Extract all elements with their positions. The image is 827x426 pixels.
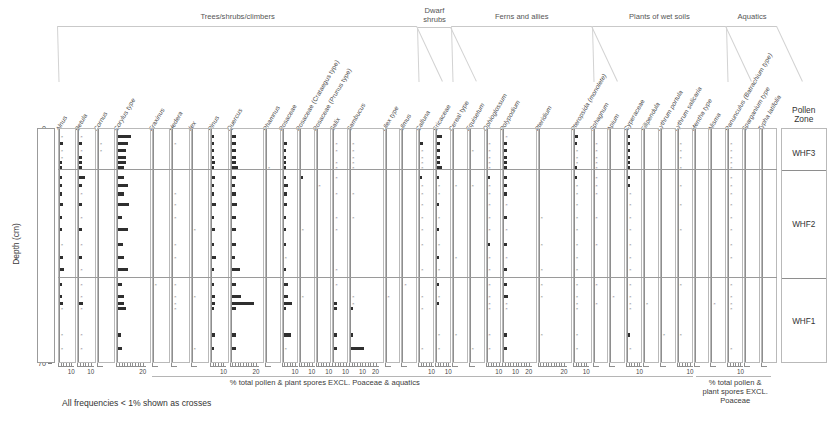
percent-minor-tick xyxy=(710,363,711,366)
trace-cross-marker xyxy=(80,307,83,310)
taxon-zero-axis xyxy=(745,129,746,362)
percent-minor-tick xyxy=(733,363,734,366)
pollen-bar xyxy=(420,142,422,145)
pollen-bar xyxy=(232,161,236,164)
percent-minor-tick xyxy=(323,363,324,366)
pollen-bar xyxy=(334,333,336,336)
main-axis-caption: % total pollen & plant spores EXCL. Poac… xyxy=(230,378,420,387)
trace-cross-marker xyxy=(576,283,579,286)
zone-header-line2: Zone xyxy=(794,114,813,124)
pollen-bar xyxy=(118,268,127,271)
pollen-bar xyxy=(437,135,442,138)
pollen-bar xyxy=(79,203,81,206)
trace-cross-marker xyxy=(80,149,83,152)
pollen-bar xyxy=(504,216,506,219)
pollen-bar xyxy=(575,135,578,138)
percent-minor-tick xyxy=(354,363,355,366)
taxon-panel xyxy=(265,128,281,363)
percent-axis-line xyxy=(710,366,716,367)
percent-minor-tick xyxy=(265,363,266,366)
taxon-panel xyxy=(152,128,170,363)
percent-minor-tick xyxy=(576,363,577,366)
trace-cross-marker xyxy=(505,228,508,231)
pollen-bar xyxy=(504,149,506,152)
pollen-bar xyxy=(504,142,506,145)
percent-minor-tick xyxy=(660,363,661,366)
trace-cross-marker xyxy=(335,161,338,164)
percent-minor-tick xyxy=(349,363,350,366)
percent-minor-tick xyxy=(551,363,552,366)
taxon-panel xyxy=(210,128,228,363)
pollen-bar xyxy=(212,192,214,195)
percent-minor-tick xyxy=(77,363,78,366)
percent-minor-tick xyxy=(238,363,239,366)
percent-minor-tick xyxy=(304,363,305,366)
trace-cross-marker xyxy=(80,216,83,219)
trace-cross-marker xyxy=(629,347,632,350)
trace-cross-marker xyxy=(284,347,287,350)
trace-cross-marker xyxy=(438,347,441,350)
trace-cross-marker xyxy=(595,176,598,179)
pollen-bar xyxy=(118,295,124,298)
percent-minor-tick xyxy=(132,363,133,366)
percent-minor-tick xyxy=(637,363,638,366)
percent-minor-tick xyxy=(116,363,117,366)
percent-minor-tick xyxy=(318,363,319,366)
percent-minor-tick xyxy=(496,363,497,366)
pollen-bar xyxy=(212,302,215,305)
pollen-bar xyxy=(232,203,237,206)
percent-axis-line xyxy=(385,366,391,367)
trace-cross-marker xyxy=(595,149,598,152)
percent-minor-tick xyxy=(540,363,541,366)
pollen-bar xyxy=(284,166,286,169)
pollen-bar xyxy=(284,295,289,298)
percent-minor-tick xyxy=(469,363,470,366)
percent-tick-label: 10 xyxy=(428,368,435,375)
percent-minor-tick xyxy=(543,363,544,366)
pollen-bar xyxy=(284,268,286,271)
percent-minor-tick xyxy=(365,363,366,366)
percent-tick-label: 10 xyxy=(737,368,744,375)
trace-cross-marker xyxy=(488,166,491,169)
percent-minor-tick xyxy=(573,363,574,366)
taxon-zero-axis xyxy=(610,129,611,362)
percent-minor-tick xyxy=(124,363,125,366)
percent-minor-tick xyxy=(629,363,630,366)
taxon-zero-axis xyxy=(266,129,267,362)
pollen-bar xyxy=(118,216,122,219)
trace-cross-marker xyxy=(438,333,441,336)
trace-cross-marker xyxy=(488,347,491,350)
trace-cross-marker xyxy=(80,333,83,336)
taxon-panel xyxy=(349,128,383,363)
trace-cross-marker xyxy=(505,203,508,206)
pollen-bar xyxy=(232,176,237,179)
pollen-bar xyxy=(212,166,214,169)
trace-cross-marker xyxy=(421,307,424,310)
trace-cross-marker xyxy=(61,307,64,310)
trace-cross-marker xyxy=(488,184,491,187)
pollen-bar xyxy=(284,161,287,164)
percent-minor-tick xyxy=(677,363,678,366)
pollen-bar xyxy=(212,156,214,159)
trace-cross-marker xyxy=(629,228,632,231)
percent-axis-line xyxy=(744,366,750,367)
trace-cross-marker xyxy=(335,192,338,195)
pollen-bar xyxy=(212,184,214,187)
pollen-bar xyxy=(212,203,215,206)
pollen-bar xyxy=(437,176,439,179)
pollen-bar xyxy=(284,142,287,145)
pollen-bar xyxy=(212,347,214,350)
taxon-panel xyxy=(58,128,76,363)
percent-tick-label: 20 xyxy=(372,368,379,375)
percent-minor-tick xyxy=(581,363,582,366)
taxon-panel xyxy=(401,128,417,363)
trace-cross-marker xyxy=(454,256,457,259)
percent-minor-tick xyxy=(71,363,72,366)
taxon-zero-axis xyxy=(711,129,712,362)
percent-minor-tick xyxy=(554,363,555,366)
percent-minor-tick xyxy=(127,363,128,366)
taxon-name-label: Corylus type xyxy=(112,96,136,131)
percent-minor-tick xyxy=(61,363,62,366)
trace-cross-marker xyxy=(730,166,733,169)
percent-minor-tick xyxy=(401,363,402,366)
